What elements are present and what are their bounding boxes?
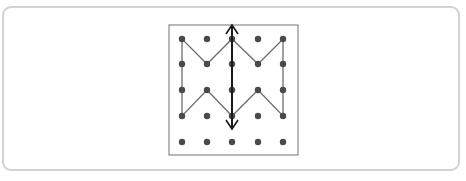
grid-dot [204, 87, 210, 93]
grid-dot [179, 87, 185, 93]
grid-dot [229, 139, 235, 145]
grid-dot [179, 113, 185, 119]
grid-dot [255, 87, 261, 93]
grid-dot [280, 139, 286, 145]
grid-dot [280, 36, 286, 42]
grid-dot [204, 61, 210, 67]
grid-dot [204, 36, 210, 42]
grid-dot [179, 139, 185, 145]
line-of-symmetry-arrow [226, 25, 238, 129]
grid-dot [255, 139, 261, 145]
grid-dot [280, 61, 286, 67]
grid-dot [280, 87, 286, 93]
grid-dot [204, 113, 210, 119]
dot-grid-figure [0, 0, 466, 181]
grid-dot [204, 139, 210, 145]
grid-dot [280, 113, 286, 119]
grid-dot [179, 36, 185, 42]
grid-dot [255, 61, 261, 67]
grid-dot [255, 113, 261, 119]
grid-dot [179, 61, 185, 67]
grid-dot [255, 36, 261, 42]
